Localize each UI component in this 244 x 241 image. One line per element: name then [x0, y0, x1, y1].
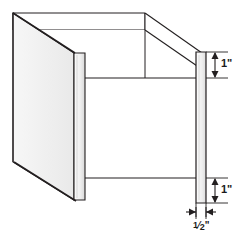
top-dim-arrow-up — [212, 52, 219, 59]
left-panel-edge-thickness — [74, 53, 85, 200]
bottom-dim-arrow-down — [212, 196, 219, 203]
top-dim-arrow-down — [212, 71, 219, 78]
thick-dim-arrow-left — [189, 209, 196, 216]
right-wall-face — [145, 13, 201, 78]
bottom-dim-arrow-up — [212, 178, 219, 185]
right-vertical-post — [196, 52, 206, 203]
dimension-top-label: 1" — [221, 58, 232, 69]
floor-panel — [80, 78, 201, 178]
dimension-thickness-half-inch — [186, 203, 216, 219]
isometric-box-drawing — [0, 0, 244, 241]
figure-canvas: 1" 1" 1⁄2" — [0, 0, 244, 241]
right-receding-wall — [145, 13, 202, 78]
thickness-unit: " — [205, 220, 210, 231]
thick-dim-arrow-right — [206, 209, 213, 216]
dimension-thickness-label: 1⁄2" — [193, 221, 209, 232]
dimension-bottom-label: 1" — [221, 184, 232, 195]
right-post-face — [196, 52, 206, 203]
